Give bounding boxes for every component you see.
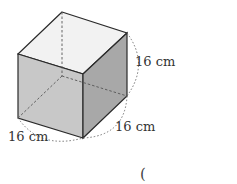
answer-paren: (	[140, 165, 146, 183]
cube-diagram: 16 cm 16 cm 16 cm (	[0, 0, 237, 184]
width-label: 16 cm	[8, 129, 48, 144]
height-label: 16 cm	[135, 54, 175, 69]
depth-label: 16 cm	[115, 119, 155, 134]
